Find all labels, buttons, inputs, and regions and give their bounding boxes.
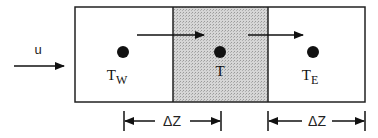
finite-volume-diagram: u TW T TE ΔZ ΔZ bbox=[0, 0, 378, 138]
inflow-label: u bbox=[34, 42, 41, 57]
svg-text:ΔZ: ΔZ bbox=[308, 113, 326, 129]
svg-text:ΔZ: ΔZ bbox=[163, 113, 181, 129]
label-t: T bbox=[215, 63, 224, 79]
label-tw: TW bbox=[107, 67, 128, 87]
node-center-dot-icon bbox=[214, 46, 226, 58]
node-east-dot-icon bbox=[307, 46, 319, 58]
label-te: TE bbox=[302, 67, 319, 87]
node-west-dot-icon bbox=[117, 46, 129, 58]
dimension-dz-2: ΔZ bbox=[268, 111, 365, 131]
dimension-dz-1: ΔZ bbox=[124, 111, 221, 131]
